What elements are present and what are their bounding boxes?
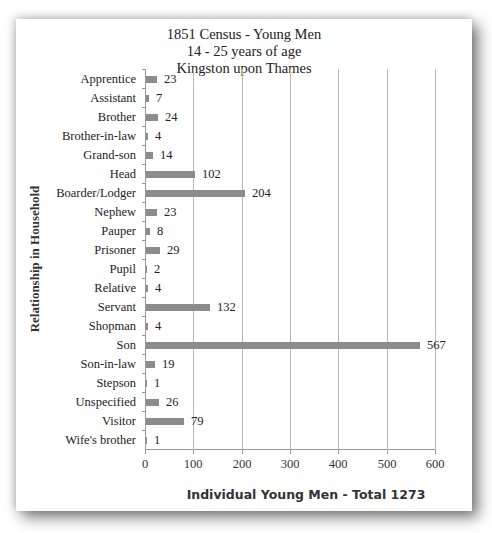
y-axis-label: Relationship in Household — [27, 186, 43, 333]
bar-row: Stepson1 — [145, 374, 435, 393]
x-tick — [193, 450, 194, 454]
bar-row: Pauper8 — [145, 222, 435, 241]
y-tick — [142, 202, 145, 203]
data-label: 23 — [164, 72, 177, 87]
bar-row: Pupil2 — [145, 260, 435, 279]
bar — [146, 228, 150, 235]
data-label: 14 — [160, 148, 173, 163]
category-label: Stepson — [96, 376, 136, 391]
bar — [146, 380, 147, 387]
category-label: Relative — [94, 281, 136, 296]
category-label: Son — [117, 338, 136, 353]
bar — [146, 266, 147, 273]
data-label: 204 — [252, 186, 271, 201]
bar — [146, 418, 184, 425]
data-label: 19 — [162, 357, 175, 372]
data-label: 8 — [157, 224, 163, 239]
bar-row: Brother24 — [145, 108, 435, 127]
title-line-1: 1851 Census - Young Men — [16, 26, 472, 43]
title-line-2: 14 - 25 years of age — [16, 43, 472, 60]
data-label: 1 — [154, 376, 160, 391]
x-axis-label: Individual Young Men - Total 1273 — [16, 487, 472, 502]
y-tick — [142, 69, 145, 70]
chart-panel: 1851 Census - Young Men 14 - 25 years of… — [16, 19, 472, 511]
bar — [146, 399, 159, 406]
data-label: 7 — [156, 91, 162, 106]
bar-row: Son567 — [145, 336, 435, 355]
bar — [146, 247, 160, 254]
bar-row: Grand-son14 — [145, 146, 435, 165]
data-label: 24 — [165, 110, 178, 125]
category-label: Prisoner — [94, 243, 136, 258]
x-tick-label: 400 — [329, 457, 348, 472]
y-tick — [142, 259, 145, 260]
y-tick — [142, 335, 145, 336]
bar — [146, 114, 158, 121]
bar — [146, 342, 420, 349]
data-label: 567 — [427, 338, 446, 353]
bar — [146, 133, 148, 140]
bar-row: Boarder/Lodger204 — [145, 184, 435, 203]
bar — [146, 171, 195, 178]
x-tick — [242, 450, 243, 454]
y-tick — [142, 392, 145, 393]
y-tick — [142, 107, 145, 108]
category-label: Head — [110, 167, 136, 182]
category-label: Unspecified — [76, 395, 136, 410]
category-label: Pupil — [110, 262, 136, 277]
data-label: 132 — [217, 300, 236, 315]
bar-row: Apprentice23 — [145, 70, 435, 89]
data-label: 4 — [155, 129, 161, 144]
y-tick — [142, 297, 145, 298]
bar-row: Relative4 — [145, 279, 435, 298]
category-label: Apprentice — [80, 72, 136, 87]
x-tick-label: 100 — [184, 457, 203, 472]
y-tick — [142, 164, 145, 165]
gridline — [435, 69, 436, 450]
data-label: 29 — [167, 243, 180, 258]
category-label: Pauper — [101, 224, 136, 239]
y-tick — [142, 354, 145, 355]
bar-row: Assistant7 — [145, 89, 435, 108]
bar-row: Son-in-law19 — [145, 355, 435, 374]
category-label: Grand-son — [83, 148, 136, 163]
data-label: 4 — [155, 281, 161, 296]
bar — [146, 285, 148, 292]
y-tick — [142, 88, 145, 89]
bar-row: Wife's brother1 — [145, 431, 435, 450]
y-tick — [142, 126, 145, 127]
x-tick — [338, 450, 339, 454]
y-tick — [142, 145, 145, 146]
bar — [146, 152, 153, 159]
data-label: 26 — [166, 395, 179, 410]
data-label: 1 — [154, 433, 160, 448]
y-tick — [142, 316, 145, 317]
y-tick — [142, 278, 145, 279]
bar — [146, 361, 155, 368]
bar — [146, 323, 148, 330]
bar — [146, 95, 149, 102]
bar-row: Nephew23 — [145, 203, 435, 222]
bar-row: Brother-in-law4 — [145, 127, 435, 146]
category-label: Wife's brother — [65, 433, 136, 448]
category-label: Boarder/Lodger — [56, 186, 136, 201]
y-tick — [142, 183, 145, 184]
y-tick — [142, 411, 145, 412]
x-tick — [145, 450, 146, 454]
bar-row: Visitor79 — [145, 412, 435, 431]
category-label: Servant — [98, 300, 136, 315]
bar — [146, 437, 147, 444]
bar — [146, 190, 245, 197]
category-label: Brother-in-law — [62, 129, 136, 144]
category-label: Visitor — [102, 414, 136, 429]
bar-row: Prisoner29 — [145, 241, 435, 260]
category-label: Nephew — [94, 205, 136, 220]
y-tick — [142, 221, 145, 222]
data-label: 23 — [164, 205, 177, 220]
y-tick — [142, 373, 145, 374]
y-tick — [142, 240, 145, 241]
category-label: Assistant — [90, 91, 136, 106]
x-tick-label: 600 — [426, 457, 445, 472]
bar-row: Head102 — [145, 165, 435, 184]
x-tick-label: 0 — [142, 457, 148, 472]
